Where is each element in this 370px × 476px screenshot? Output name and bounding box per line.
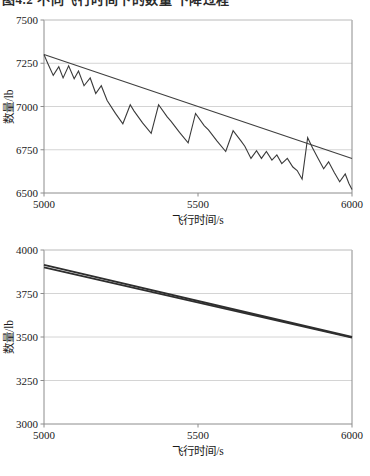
y-axis-title: 数量/lb bbox=[2, 320, 15, 354]
y-tick-label: 7000 bbox=[16, 101, 39, 113]
y-tick-label: 4000 bbox=[16, 244, 39, 256]
x-tick-label: 5000 bbox=[33, 429, 56, 441]
chart-top-svg: 65006750700072507500500055006000飞行时间/s数量… bbox=[0, 8, 370, 230]
x-tick-label: 6000 bbox=[341, 429, 364, 441]
clipped-caption-text: 图4.2 不同飞行时间下的数量 下降过程 bbox=[2, 0, 230, 8]
x-tick-label: 5500 bbox=[187, 198, 210, 210]
y-tick-label: 6750 bbox=[16, 144, 39, 156]
y-tick-label: 3250 bbox=[16, 375, 39, 387]
chart-top-plot-area: 65006750700072507500500055006000飞行时间/s数量… bbox=[0, 8, 370, 230]
chart-bottom-plot-area: 30003250350037504000500055006000飞行时间/s数量… bbox=[0, 232, 370, 476]
x-axis-title: 飞行时间/s bbox=[172, 445, 224, 457]
chart-bottom-figure: 30003250350037504000500055006000飞行时间/s数量… bbox=[0, 232, 370, 476]
chart-bottom-svg: 30003250350037504000500055006000飞行时间/s数量… bbox=[0, 232, 370, 476]
y-axis-title: 数量/lb bbox=[2, 89, 15, 123]
series-sawtooth-fuel bbox=[44, 55, 352, 190]
x-axis-title: 飞行时间/s bbox=[172, 214, 224, 226]
series-line-lower bbox=[44, 267, 352, 337]
x-tick-label: 5500 bbox=[187, 429, 210, 441]
chart-top-figure: 65006750700072507500500055006000飞行时间/s数量… bbox=[0, 8, 370, 230]
y-tick-label: 7250 bbox=[16, 57, 39, 69]
y-tick-label: 7500 bbox=[16, 14, 39, 26]
y-tick-label: 3750 bbox=[16, 288, 39, 300]
y-tick-label: 3500 bbox=[16, 331, 39, 343]
x-tick-label: 6000 bbox=[341, 198, 364, 210]
x-tick-label: 5000 bbox=[33, 198, 56, 210]
